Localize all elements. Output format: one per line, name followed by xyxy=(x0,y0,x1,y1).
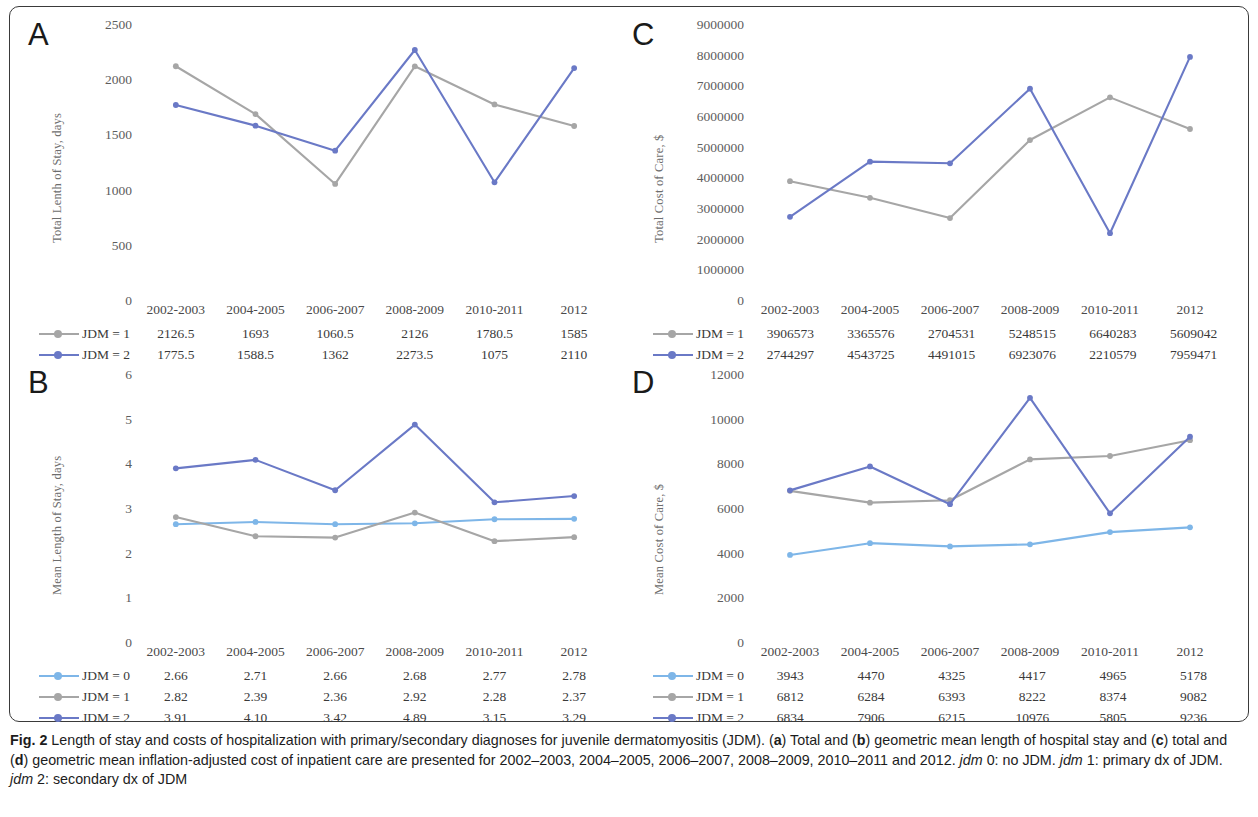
data-value-cell: 2.82 xyxy=(136,689,216,705)
data-point xyxy=(787,178,793,184)
legend-value-cells: 2.662.712.662.682.772.78 xyxy=(136,668,614,684)
data-point xyxy=(571,123,577,129)
figure-caption: Fig. 2 Length of stay and costs of hospi… xyxy=(10,731,1248,790)
y-tick-label: 6000000 xyxy=(662,109,744,125)
panel-d-x-axis: 2002-20032004-20052006-20072008-20092010… xyxy=(750,644,1230,660)
data-value-cell: 6284 xyxy=(831,689,912,705)
data-point xyxy=(173,102,179,108)
legend-line-marker-icon xyxy=(39,670,79,682)
data-point xyxy=(173,465,179,471)
data-value-cell: 2.28 xyxy=(455,689,535,705)
x-tick-label: 2012 xyxy=(534,302,614,318)
data-value-cell: 3906573 xyxy=(750,326,831,342)
x-tick-label: 2004-2005 xyxy=(830,302,910,318)
data-point xyxy=(947,544,953,550)
data-value-cell: 3943 xyxy=(750,668,831,684)
data-value-cell: 4965 xyxy=(1073,668,1154,684)
panel-d-y-axis-label: Mean Cost of Care, $ xyxy=(652,484,667,595)
panel-c-plot xyxy=(750,25,1230,301)
data-value-cell: 1693 xyxy=(216,326,296,342)
data-value-cell: 2.68 xyxy=(375,668,455,684)
panel-d-y-ticks: 120001000080006000400020000 xyxy=(682,375,744,643)
plot-svg-d xyxy=(750,375,1230,643)
legend-row: JDM = 0394344704325441749655178 xyxy=(642,665,1234,686)
data-point xyxy=(571,65,577,71)
data-point xyxy=(253,123,259,129)
data-value-cell: 2.77 xyxy=(455,668,535,684)
data-point xyxy=(571,516,577,522)
legend-label: JDM = 2 xyxy=(696,710,744,726)
data-value-cell: 5248515 xyxy=(992,326,1073,342)
y-tick-label: 2000000 xyxy=(662,232,744,248)
panel-d-letter: D xyxy=(632,367,654,398)
data-point xyxy=(253,111,259,117)
data-value-cell: 2.78 xyxy=(534,668,614,684)
panel-b-y-ticks: 6543210 xyxy=(88,375,132,643)
data-point xyxy=(492,179,498,185)
y-tick-label: 12000 xyxy=(682,367,744,383)
legend-entry: JDM = 2 xyxy=(642,710,750,726)
legend-entry: JDM = 1 xyxy=(642,326,750,342)
y-tick-label: 3000000 xyxy=(662,201,744,217)
data-point xyxy=(253,519,259,525)
data-point xyxy=(867,540,873,546)
panel-a-letter: A xyxy=(28,19,49,50)
legend-line-marker-icon xyxy=(653,712,693,724)
y-tick-label: 4 xyxy=(88,456,132,472)
panel-c: C Total Cost of Care, $ 9000000800000070… xyxy=(626,11,1246,363)
data-point xyxy=(332,487,338,493)
data-value-cell: 9082 xyxy=(1153,689,1234,705)
panel-c-y-ticks: 9000000800000070000006000000500000040000… xyxy=(662,25,744,301)
data-point xyxy=(1107,529,1113,535)
series-jdm-1 xyxy=(173,63,577,186)
data-point xyxy=(1027,86,1033,92)
legend-entry: JDM = 2 xyxy=(28,710,136,726)
data-point xyxy=(332,148,338,154)
data-point xyxy=(867,464,873,470)
y-tick-label: 1000000 xyxy=(662,262,744,278)
series-line xyxy=(790,398,1190,513)
legend-row: JDM = 23.914.103.424.893.153.29 xyxy=(28,707,614,728)
figure-caption-text: Length of stay and costs of hospitalizat… xyxy=(10,732,1227,787)
series-jdm-2 xyxy=(173,422,577,506)
series-line xyxy=(790,57,1190,233)
data-point xyxy=(867,500,873,506)
data-value-cell: 2.39 xyxy=(216,689,296,705)
y-tick-label: 0 xyxy=(68,293,132,309)
y-tick-label: 10000 xyxy=(682,412,744,428)
data-point xyxy=(412,422,418,428)
data-value-cell: 3.91 xyxy=(136,710,216,726)
data-point xyxy=(492,516,498,522)
data-value-cell: 6812 xyxy=(750,689,831,705)
x-tick-label: 2012 xyxy=(1150,302,1230,318)
data-value-cell: 2.71 xyxy=(216,668,296,684)
legend-line-marker-icon xyxy=(39,691,79,703)
y-tick-label: 2500 xyxy=(68,17,132,33)
data-value-cell: 2.36 xyxy=(295,689,375,705)
data-value-cell: 6834 xyxy=(750,710,831,726)
caption-segment: a xyxy=(774,732,782,748)
legend-value-cells: 2.822.392.362.922.282.37 xyxy=(136,689,614,705)
legend-label: JDM = 0 xyxy=(82,668,130,684)
x-tick-label: 2008-2009 xyxy=(990,644,1070,660)
data-point xyxy=(867,159,873,165)
legend-value-cells: 394344704325441749655178 xyxy=(750,668,1234,684)
legend-row: JDM = 1390657333655762704531524851566402… xyxy=(642,323,1234,344)
data-point xyxy=(947,160,953,166)
figure-page: A Total Lenth of Stay, days 250020001500… xyxy=(0,0,1258,817)
y-tick-label: 2000 xyxy=(682,590,744,606)
plot-svg-b xyxy=(136,375,614,643)
y-tick-label: 6000 xyxy=(682,501,744,517)
y-tick-label: 4000000 xyxy=(662,170,744,186)
caption-segment: d xyxy=(15,752,24,768)
legend-value-cells: 3906573336557627045315248515664028356090… xyxy=(750,326,1234,342)
data-point xyxy=(1027,137,1033,143)
x-tick-label: 2010-2011 xyxy=(1070,302,1150,318)
series-line xyxy=(176,66,574,184)
caption-segment: jdm xyxy=(960,752,983,768)
caption-segment: ) Total and ( xyxy=(782,732,857,748)
series-line xyxy=(176,50,574,182)
series-jdm-1 xyxy=(173,510,577,544)
legend-label: JDM = 1 xyxy=(82,689,130,705)
plot-svg-c xyxy=(750,25,1230,301)
